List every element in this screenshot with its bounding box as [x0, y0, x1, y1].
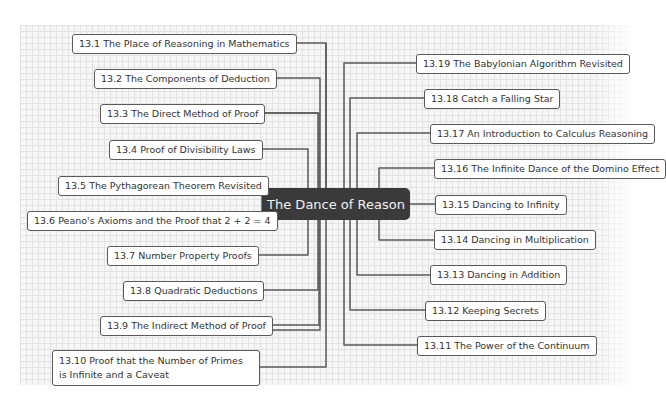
topic-label: 13.18 Catch a Falling Star — [431, 93, 553, 104]
topic-label: 13.14 Dancing in Multiplication — [441, 234, 589, 245]
topic-node-13-4[interactable]: 13.4 Proof of Divisibility Laws — [109, 140, 263, 160]
topic-label: 13.17 An Introduction to Calculus Reason… — [437, 128, 648, 139]
topic-label: 13.7 Number Property Proofs — [114, 250, 252, 261]
topic-node-13-11[interactable]: 13.11 The Power of the Continuum — [417, 336, 597, 356]
topic-node-13-7[interactable]: 13.7 Number Property Proofs — [107, 246, 259, 266]
topic-node-13-18[interactable]: 13.18 Catch a Falling Star — [424, 89, 560, 109]
central-topic-label: The Dance of Reason — [267, 197, 405, 212]
topic-label: 13.12 Keeping Secrets — [432, 305, 539, 316]
topic-node-13-10[interactable]: 13.10 Proof that the Number of Primes is… — [52, 350, 260, 386]
topic-node-13-19[interactable]: 13.19 The Babylonian Algorithm Revisited — [416, 54, 630, 74]
topic-label: 13.1 The Place of Reasoning in Mathemati… — [79, 38, 290, 49]
central-topic[interactable]: The Dance of Reason — [262, 188, 410, 220]
topic-label: 13.8 Quadratic Deductions — [130, 285, 257, 296]
topic-node-13-2[interactable]: 13.2 The Components of Deduction — [94, 69, 277, 89]
topic-label: 13.13 Dancing in Addition — [437, 269, 560, 280]
topic-node-13-8[interactable]: 13.8 Quadratic Deductions — [123, 281, 264, 301]
topic-node-13-6[interactable]: 13.6 Peano's Axioms and the Proof that 2… — [27, 211, 278, 231]
topic-label: 13.6 Peano's Axioms and the Proof that 2… — [34, 215, 271, 226]
topic-label: 13.10 Proof that the Number of Primes is… — [59, 355, 243, 380]
topic-label: 13.16 The Infinite Dance of the Domino E… — [441, 163, 659, 174]
topic-label: 13.2 The Components of Deduction — [101, 73, 270, 84]
topic-label: 13.3 The Direct Method of Proof — [107, 108, 258, 119]
topic-node-13-3[interactable]: 13.3 The Direct Method of Proof — [100, 104, 265, 124]
topic-node-13-16[interactable]: 13.16 The Infinite Dance of the Domino E… — [434, 159, 666, 179]
topic-node-13-15[interactable]: 13.15 Dancing to Infinity — [435, 195, 567, 215]
topic-label: 13.4 Proof of Divisibility Laws — [116, 144, 256, 155]
topic-node-13-9[interactable]: 13.9 The Indirect Method of Proof — [100, 316, 273, 336]
topic-label: 13.19 The Babylonian Algorithm Revisited — [423, 58, 623, 69]
topic-label: 13.11 The Power of the Continuum — [424, 340, 590, 351]
topic-node-13-17[interactable]: 13.17 An Introduction to Calculus Reason… — [430, 124, 655, 144]
topic-label: 13.9 The Indirect Method of Proof — [107, 320, 266, 331]
topic-label: 13.5 The Pythagorean Theorem Revisited — [65, 180, 262, 191]
topic-node-13-1[interactable]: 13.1 The Place of Reasoning in Mathemati… — [72, 34, 297, 54]
topic-label: 13.15 Dancing to Infinity — [442, 199, 560, 210]
topic-node-13-14[interactable]: 13.14 Dancing in Multiplication — [434, 230, 596, 250]
topic-node-13-12[interactable]: 13.12 Keeping Secrets — [425, 301, 546, 321]
topic-node-13-5[interactable]: 13.5 The Pythagorean Theorem Revisited — [58, 176, 269, 196]
topic-node-13-13[interactable]: 13.13 Dancing in Addition — [430, 265, 567, 285]
